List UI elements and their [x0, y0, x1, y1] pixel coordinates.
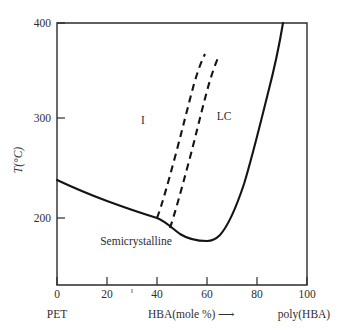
region-label-liquid-crystal: LC	[217, 110, 232, 122]
y-axis-title: T(°C)	[12, 147, 25, 173]
x-axis-right-endpoint-label: poly(HBA)	[278, 308, 331, 321]
axis-frame	[57, 23, 307, 285]
x-tick-label-60: 60	[201, 288, 213, 300]
x-tick-label-100: 100	[298, 288, 316, 300]
x-tick-label-80: 80	[251, 288, 263, 300]
y-tick-label-400: 400	[34, 17, 52, 29]
y-tick-label-200: 200	[34, 212, 52, 224]
x-axis-left-endpoint-label: PET	[47, 308, 67, 320]
x-tick-label-40: 40	[151, 288, 163, 300]
phase-diagram-svg: 400 300 200 T(°C) 0 20 40 60 80 100 HBA	[0, 0, 340, 329]
y-axis-ticks	[57, 23, 65, 218]
y-tick-label-300: 300	[34, 112, 52, 124]
x-tick-label-0: 0	[54, 288, 60, 300]
x-axis-tick-labels: 0 20 40 60 80 100	[54, 288, 316, 300]
phase-diagram-figure: 400 300 200 T(°C) 0 20 40 60 80 100 HBA	[0, 0, 340, 329]
plot-border	[57, 23, 307, 285]
solid-phase-boundary-curve	[57, 23, 283, 241]
region-label-isotropic: I	[141, 114, 145, 126]
y-axis-tick-labels: 400 300 200	[34, 17, 52, 224]
x-tick-label-20: 20	[101, 288, 113, 300]
dashed-nematic-boundary-right	[170, 58, 218, 228]
x-axis-title: HBA(mole %)	[148, 308, 216, 321]
x-axis-title-group: HBA(mole %) ⟶	[148, 308, 235, 321]
x-axis-title-arrow-icon: ⟶	[218, 308, 235, 320]
region-label-semicrystalline: Semicrystalline	[100, 235, 172, 248]
